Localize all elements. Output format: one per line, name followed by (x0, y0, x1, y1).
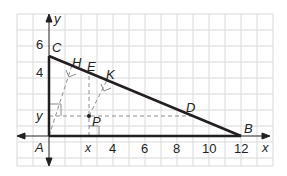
x-tick-6: 6 (141, 141, 148, 156)
y-axis-arrow-up-icon (46, 14, 52, 22)
dashed-lines (49, 65, 193, 136)
triangle-diagram: C H E K D B A P x y x y 4 6 8 10 12 4 6 (0, 0, 287, 176)
x-axis-arrow-left-icon (17, 133, 25, 139)
x-axis-arrow-right-icon (262, 133, 270, 139)
label-E: E (87, 59, 96, 74)
label-C: C (52, 40, 62, 55)
y-axis-label: y (53, 11, 62, 26)
x-axis-label: x (261, 140, 269, 155)
x-tick-12: 12 (234, 141, 248, 156)
point-P-dot (87, 114, 91, 118)
y-tick-6: 6 (36, 37, 43, 52)
y-axis-arrow-down-icon (46, 158, 52, 166)
label-K: K (106, 67, 116, 82)
label-A: A (34, 140, 44, 155)
x-tick-8: 8 (173, 141, 180, 156)
x-tick-10: 10 (202, 141, 216, 156)
dashed-PK (89, 80, 107, 116)
label-D: D (186, 100, 195, 115)
y-tick-4: 4 (36, 65, 43, 80)
label-B: B (244, 121, 253, 136)
x-variable-label: x (84, 141, 92, 155)
label-P: P (92, 114, 101, 129)
right-angle-H (66, 70, 76, 77)
label-H: H (72, 55, 82, 70)
x-tick-4: 4 (109, 141, 116, 156)
